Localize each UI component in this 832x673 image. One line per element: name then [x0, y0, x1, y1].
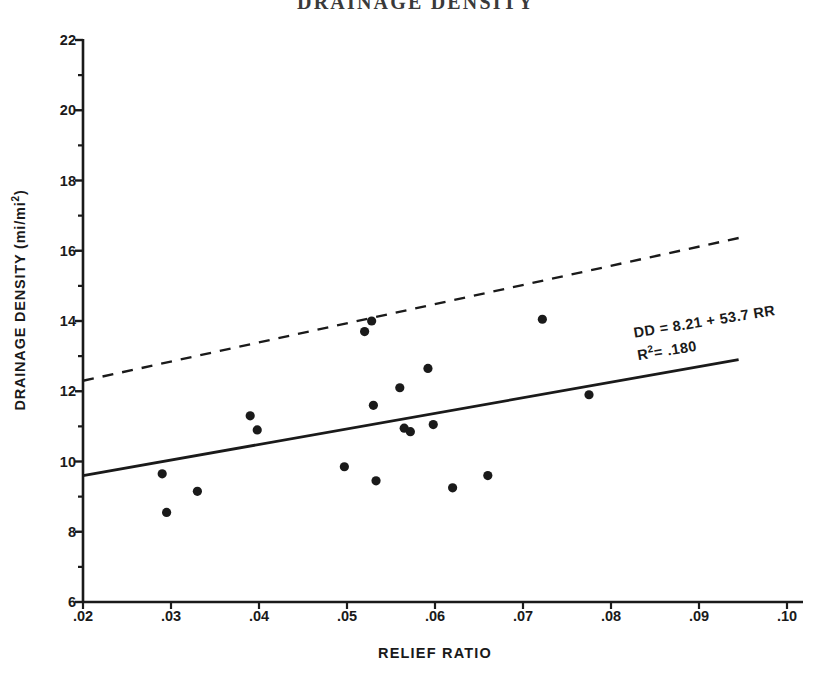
chart-title: DRAINAGE DENSITY: [0, 0, 832, 14]
scatter-point: [246, 411, 255, 420]
y-axis-title-suffix: ): [12, 189, 28, 195]
scatter-point: [193, 487, 202, 496]
scatter-point: [448, 483, 457, 492]
scatter-point: [340, 462, 349, 471]
r-squared-value: = .180: [653, 338, 698, 361]
scatter-point: [429, 420, 438, 429]
x-tick-label: .02: [73, 608, 93, 624]
x-tick-label: .04: [249, 608, 269, 624]
x-tick-label: .07: [513, 608, 533, 624]
y-tick-label: 18: [42, 173, 76, 188]
scatter-point: [371, 476, 380, 485]
x-tick-label: .08: [601, 608, 621, 624]
x-tick-label: .09: [689, 608, 709, 624]
y-tick-label: 6: [42, 595, 76, 610]
x-tick-label: .03: [161, 608, 181, 624]
y-tick-label: 20: [42, 103, 76, 118]
scatter-point: [162, 508, 171, 517]
y-axis-title-superscript: 2: [10, 195, 21, 201]
y-axis-title-text: DRAINAGE DENSITY (mi/mi: [12, 201, 28, 410]
scatter-point: [367, 316, 376, 325]
scatter-point: [538, 315, 547, 324]
scatter-point: [158, 469, 167, 478]
chart-figure: DRAINAGE DENSITY DRAINAGE DENSITY (mi/mi…: [0, 0, 832, 673]
y-tick-label: 14: [42, 314, 76, 329]
scatter-point: [483, 471, 492, 480]
y-tick-label: 22: [42, 33, 76, 48]
x-axis-title: RELIEF RATIO: [83, 645, 787, 661]
scatter-point: [584, 390, 593, 399]
scatter-point: [395, 383, 404, 392]
x-tick-label: .10: [777, 608, 797, 624]
scatter-point: [369, 401, 378, 410]
scatter-points-group: [158, 315, 594, 517]
x-tick-label: .06: [425, 608, 445, 624]
scatter-point: [253, 425, 262, 434]
x-tick-label: .05: [337, 608, 357, 624]
scatter-point: [423, 364, 432, 373]
regression-line: [83, 360, 739, 476]
y-tick-label: 8: [42, 525, 76, 540]
scatter-point: [360, 327, 369, 336]
y-tick-label: 10: [42, 454, 76, 469]
y-tick-label: 12: [42, 384, 76, 399]
y-axis-title: DRAINAGE DENSITY (mi/mi2): [10, 130, 28, 470]
y-tick-label: 16: [42, 244, 76, 259]
scatter-point: [406, 427, 415, 436]
